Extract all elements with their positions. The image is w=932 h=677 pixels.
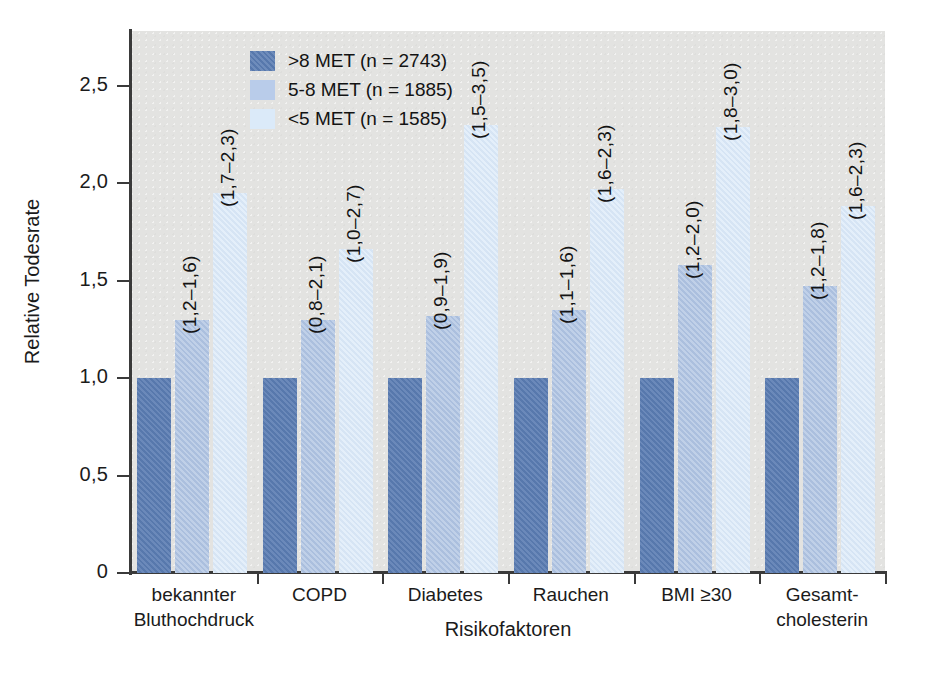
- y-axis-line: [129, 29, 132, 575]
- y-tick-label: 2,5: [8, 73, 108, 96]
- confidence-interval-label: (1,0–2,7): [343, 185, 365, 264]
- legend-swatch: [250, 109, 275, 129]
- bar[interactable]: [552, 310, 586, 573]
- y-tick-label: 0: [8, 560, 108, 583]
- bar[interactable]: [339, 249, 373, 573]
- bar[interactable]: [263, 378, 297, 573]
- bar[interactable]: [213, 193, 247, 573]
- confidence-interval-label: (1,5–3,5): [468, 60, 490, 139]
- bar[interactable]: [640, 378, 674, 573]
- x-category-line: Diabetes: [382, 582, 508, 607]
- bar[interactable]: [765, 378, 799, 573]
- bar[interactable]: [426, 316, 460, 573]
- y-axis-title: Relative Todesrate: [21, 102, 44, 462]
- confidence-interval-label: (0,9–1,9): [430, 251, 452, 330]
- x-category-label: Gesamt-cholesterin: [759, 582, 885, 632]
- bar[interactable]: [803, 286, 837, 573]
- bar[interactable]: [514, 378, 548, 573]
- y-tick-label: 0,5: [8, 463, 108, 486]
- bar[interactable]: [301, 320, 335, 573]
- confidence-interval-label: (1,2–2,0): [682, 200, 704, 279]
- bar[interactable]: [678, 265, 712, 573]
- y-tick: [117, 182, 130, 184]
- confidence-interval-label: (1,6–2,3): [845, 142, 867, 221]
- bar[interactable]: [716, 127, 750, 573]
- x-tick: [885, 573, 887, 584]
- x-category-label: Rauchen: [508, 582, 634, 607]
- x-category-label: Diabetes: [382, 582, 508, 607]
- legend-item[interactable]: 5-8 MET (n = 1885): [250, 75, 453, 104]
- legend-swatch: [250, 80, 275, 100]
- x-category-line: Bluthochdruck: [131, 607, 257, 632]
- y-tick: [117, 475, 130, 477]
- x-category-line: cholesterin: [759, 607, 885, 632]
- y-tick: [117, 572, 130, 574]
- confidence-interval-label: (1,1–1,6): [556, 245, 578, 324]
- legend-item[interactable]: >8 MET (n = 2743): [250, 46, 453, 75]
- confidence-interval-label: (0,8–2,1): [305, 255, 327, 334]
- confidence-interval-label: (1,8–3,0): [720, 62, 742, 141]
- legend-swatch: [250, 51, 275, 71]
- legend-label: <5 MET (n = 1585): [288, 108, 447, 130]
- x-category-label: bekannterBluthochdruck: [131, 582, 257, 632]
- x-category-line: Rauchen: [508, 582, 634, 607]
- chart-figure: 00,51,01,52,02,5 Relative Todesrate Risi…: [0, 0, 932, 677]
- legend-label: 5-8 MET (n = 1885): [288, 79, 453, 101]
- x-category-line: Gesamt-: [759, 582, 885, 607]
- x-category-line: BMI ≥30: [634, 582, 760, 607]
- bar[interactable]: [137, 378, 171, 573]
- confidence-interval-label: (1,2–1,8): [807, 222, 829, 301]
- y-tick: [117, 280, 130, 282]
- x-category-line: bekannter: [131, 582, 257, 607]
- bar[interactable]: [175, 320, 209, 573]
- legend-label: >8 MET (n = 2743): [288, 50, 447, 72]
- y-tick: [117, 85, 130, 87]
- x-category-label: COPD: [257, 582, 383, 607]
- legend-item[interactable]: <5 MET (n = 1585): [250, 104, 453, 133]
- confidence-interval-label: (1,2–1,6): [179, 255, 201, 334]
- bar[interactable]: [464, 125, 498, 573]
- y-tick: [117, 377, 130, 379]
- bar[interactable]: [590, 189, 624, 573]
- bar[interactable]: [388, 378, 422, 573]
- x-category-label: BMI ≥30: [634, 582, 760, 607]
- confidence-interval-label: (1,6–2,3): [594, 124, 616, 203]
- bar[interactable]: [841, 206, 875, 573]
- confidence-interval-label: (1,7–2,3): [217, 128, 239, 207]
- legend: >8 MET (n = 2743)5-8 MET (n = 1885)<5 ME…: [250, 46, 453, 133]
- x-category-line: COPD: [257, 582, 383, 607]
